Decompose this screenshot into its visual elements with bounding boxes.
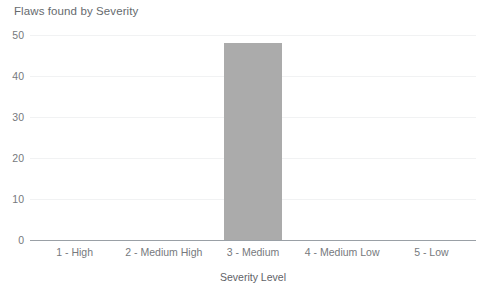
x-axis-tick-label: 5 - Low bbox=[414, 246, 448, 258]
bars-layer bbox=[30, 35, 476, 240]
bar-slot bbox=[298, 35, 387, 240]
x-axis-title: Severity Level bbox=[30, 271, 476, 283]
bar[interactable] bbox=[224, 43, 282, 240]
y-axis-tick-label: 0 bbox=[0, 234, 24, 246]
y-axis-tick-labels: 01020304050 bbox=[0, 35, 24, 240]
x-axis-tick-label: 2 - Medium High bbox=[125, 246, 202, 258]
chart-container: Flaws found by Severity 01020304050 1 - … bbox=[0, 0, 488, 289]
bar-slot bbox=[387, 35, 476, 240]
y-axis-tick-label: 30 bbox=[0, 111, 24, 123]
y-axis-tick-label: 20 bbox=[0, 152, 24, 164]
bar-slot bbox=[30, 35, 119, 240]
y-axis-tick-label: 40 bbox=[0, 70, 24, 82]
x-axis-tick-labels: 1 - High2 - Medium High3 - Medium4 - Med… bbox=[30, 246, 476, 262]
chart-title: Flaws found by Severity bbox=[14, 5, 138, 17]
bar-slot bbox=[208, 35, 297, 240]
y-axis-tick-label: 10 bbox=[0, 193, 24, 205]
x-axis-tick-label: 3 - Medium bbox=[227, 246, 280, 258]
x-axis-line bbox=[30, 240, 476, 241]
bar-slot bbox=[119, 35, 208, 240]
x-axis-tick-label: 4 - Medium Low bbox=[305, 246, 380, 258]
x-axis-tick-label: 1 - High bbox=[56, 246, 93, 258]
y-axis-tick-label: 50 bbox=[0, 29, 24, 41]
